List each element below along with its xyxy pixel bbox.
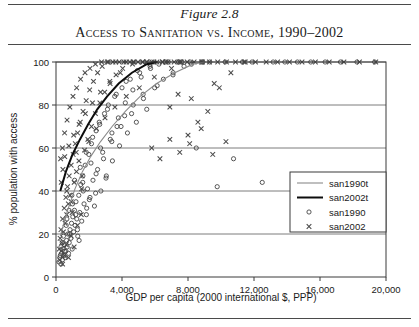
scatter-series-san1990 — [57, 60, 377, 266]
data-point-san2002 — [102, 90, 107, 95]
data-point-san2002 — [186, 133, 191, 138]
scatter-chart: 04,0008,00012,00016,00020,000 0204060801… — [0, 44, 419, 318]
data-point-san2002 — [90, 101, 95, 106]
data-point-san1990 — [71, 215, 75, 219]
data-point-san1990 — [76, 234, 80, 238]
data-point-san2002 — [120, 66, 125, 71]
plot-frame — [56, 62, 386, 277]
data-point-san2002 — [137, 86, 142, 91]
data-point-san1990 — [215, 185, 219, 189]
data-point-san2002 — [67, 144, 72, 149]
data-point-san2002 — [95, 70, 100, 75]
data-point-san2002 — [61, 167, 66, 172]
bottom-divider-rule — [8, 318, 411, 319]
chart-plot-area: 04,0008,00012,00016,00020,000 0204060801… — [0, 44, 419, 318]
data-point-san2002 — [71, 94, 76, 99]
data-point-san1990 — [101, 157, 105, 161]
data-point-san1990 — [92, 204, 96, 208]
data-point-san2002 — [114, 73, 119, 78]
data-point-san1990 — [231, 157, 235, 161]
data-point-san2002 — [65, 184, 70, 189]
legend-label-san1990t: san1990t — [329, 178, 368, 189]
data-point-san1990 — [145, 107, 149, 111]
data-point-san2002 — [77, 159, 82, 164]
x-axis-title: GDP per capita (2000 international $, PP… — [125, 292, 316, 303]
x-tick-label-0: 0 — [53, 284, 58, 295]
legend-label-san2002: san2002 — [329, 221, 365, 232]
data-point-san1990 — [78, 165, 82, 169]
data-point-san2002 — [176, 92, 181, 97]
data-point-san2002 — [158, 156, 163, 161]
chart-legend: san1990tsan2002tsan1990san2002 — [290, 172, 386, 232]
data-point-san1990 — [134, 120, 138, 124]
y-axis-ticks: 020406080100 — [33, 57, 56, 283]
y-tick-label-80: 80 — [38, 100, 49, 111]
data-point-san1990 — [139, 75, 143, 79]
data-point-san1990 — [94, 172, 98, 176]
data-point-san2002 — [74, 86, 79, 91]
data-point-san2002 — [187, 141, 192, 146]
data-point-san2002 — [84, 98, 89, 103]
data-point-san2002 — [87, 88, 92, 93]
data-point-san2002 — [100, 64, 105, 69]
data-point-san1990 — [94, 191, 98, 195]
figure-container: Figure 2.8 Access to Sanitation vs. Inco… — [0, 0, 419, 327]
y-tick-label-60: 60 — [38, 143, 49, 154]
data-point-san1990 — [102, 112, 106, 116]
data-point-san2002 — [64, 195, 69, 200]
data-point-san1990 — [85, 206, 89, 210]
data-point-san2002 — [75, 223, 80, 228]
y-axis-title: % population with access — [8, 113, 19, 225]
data-point-san1990 — [120, 86, 124, 90]
data-point-san2002 — [168, 105, 173, 110]
data-point-san1990 — [129, 112, 133, 116]
data-point-san1990 — [141, 96, 145, 100]
data-point-san1990 — [117, 144, 121, 148]
data-point-san2002 — [169, 66, 174, 71]
data-point-san1990 — [77, 193, 81, 197]
data-point-san2002 — [62, 154, 67, 159]
data-point-san2002 — [177, 150, 182, 155]
data-point-san2002 — [74, 169, 79, 174]
legend-label-san2002t: san2002t — [329, 192, 368, 203]
x-tick-label-20000: 20,000 — [371, 284, 400, 295]
data-point-san1990 — [77, 238, 81, 242]
data-point-san2002 — [189, 96, 194, 101]
data-point-san2002 — [210, 152, 215, 157]
data-point-san1990 — [131, 88, 135, 92]
figure-number: Figure 2.8 — [0, 6, 419, 22]
data-point-san1990 — [80, 219, 84, 223]
data-point-san1990 — [85, 187, 89, 191]
data-point-san2002 — [212, 81, 217, 86]
data-point-san2002 — [89, 124, 94, 129]
legend-label-san1990: san1990 — [329, 207, 365, 218]
data-point-san1990 — [128, 77, 132, 81]
y-tick-label-20: 20 — [38, 229, 49, 240]
top-divider-rule — [8, 4, 411, 5]
data-point-san1990 — [91, 135, 95, 139]
data-point-san1990 — [75, 228, 79, 232]
y-tick-label-40: 40 — [38, 186, 49, 197]
data-point-san1990 — [95, 167, 99, 171]
data-point-san1990 — [110, 131, 114, 135]
data-point-san1990 — [260, 180, 264, 184]
data-point-san2002 — [196, 120, 201, 125]
data-point-san1990 — [91, 178, 95, 182]
y-tick-label-0: 0 — [44, 272, 49, 283]
plot-border — [56, 62, 386, 277]
data-point-san1990 — [125, 131, 129, 135]
data-point-san2002 — [152, 75, 157, 80]
data-point-san2002 — [98, 90, 103, 95]
data-point-san2002 — [93, 62, 98, 67]
scatter-series-san2002 — [57, 60, 378, 267]
data-point-san2002 — [103, 116, 108, 121]
data-point-san2002 — [113, 105, 118, 110]
data-point-san2002 — [224, 139, 229, 144]
data-point-san2002 — [199, 126, 204, 131]
data-point-san1990 — [110, 159, 114, 163]
data-point-san1990 — [75, 217, 79, 221]
data-point-san2002 — [124, 94, 129, 99]
data-point-san2002 — [78, 77, 83, 82]
data-point-san1990 — [101, 150, 105, 154]
figure-caption: Access to Sanitation vs. Income, 1990–20… — [0, 23, 419, 42]
